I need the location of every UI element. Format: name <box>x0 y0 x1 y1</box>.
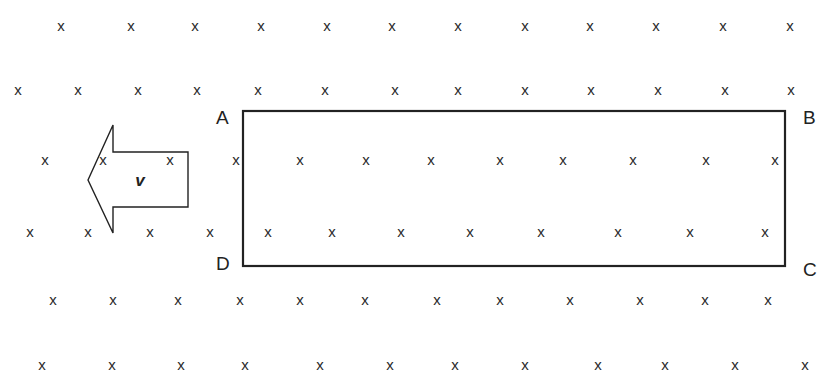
field-cross-icon: x <box>719 17 727 34</box>
field-cross-icon: x <box>537 223 545 240</box>
field-cross-icon: x <box>594 356 602 373</box>
corner-label-b: B <box>803 107 816 128</box>
field-cross-icon: x <box>496 291 504 308</box>
field-cross-icon: x <box>296 151 304 168</box>
field-cross-icon: x <box>57 17 65 34</box>
field-cross-icon: x <box>109 291 117 308</box>
field-cross-icon: x <box>206 223 214 240</box>
corner-label-a: A <box>216 107 229 128</box>
field-cross-icon: x <box>254 81 262 98</box>
field-cross-icon: x <box>49 291 57 308</box>
field-cross-icon: x <box>586 17 594 34</box>
field-cross-icon: x <box>787 81 795 98</box>
field-cross-icon: x <box>566 291 574 308</box>
field-cross-icon: x <box>328 223 336 240</box>
field-cross-icon: x <box>232 151 240 168</box>
field-cross-icon: x <box>786 17 794 34</box>
field-cross-icon: x <box>454 81 462 98</box>
field-cross-icon: x <box>521 81 529 98</box>
magnetic-field-crosses: xxxxxxxxxxxxxxxxxxxxxxxxxxxxxxxxxxxxxxxx… <box>14 17 809 373</box>
field-cross-icon: x <box>361 291 369 308</box>
field-cross-icon: x <box>686 223 694 240</box>
magnetic-field-diagram: xxxxxxxxxxxxxxxxxxxxxxxxxxxxxxxxxxxxxxxx… <box>0 0 833 389</box>
field-cross-icon: x <box>177 356 185 373</box>
field-cross-icon: x <box>629 151 637 168</box>
field-cross-icon: x <box>731 356 739 373</box>
field-cross-icon: x <box>134 81 142 98</box>
field-cross-icon: x <box>296 291 304 308</box>
field-cross-icon: x <box>661 356 669 373</box>
field-cross-icon: x <box>559 151 567 168</box>
field-cross-icon: x <box>166 151 174 168</box>
field-cross-icon: x <box>127 17 135 34</box>
field-cross-icon: x <box>521 356 529 373</box>
field-cross-icon: x <box>321 81 329 98</box>
field-cross-icon: x <box>388 17 396 34</box>
velocity-label: v <box>135 171 146 190</box>
field-cross-icon: x <box>38 356 46 373</box>
field-cross-icon: x <box>323 17 331 34</box>
field-cross-icon: x <box>636 291 644 308</box>
field-cross-icon: x <box>316 356 324 373</box>
field-cross-icon: x <box>761 223 769 240</box>
field-cross-icon: x <box>14 81 22 98</box>
corner-label-c: C <box>803 259 817 280</box>
field-cross-icon: x <box>108 356 116 373</box>
field-cross-icon: x <box>702 151 710 168</box>
field-cross-icon: x <box>721 81 729 98</box>
field-cross-icon: x <box>74 81 82 98</box>
field-cross-icon: x <box>654 81 662 98</box>
field-cross-icon: x <box>427 151 435 168</box>
field-cross-icon: x <box>652 17 660 34</box>
field-cross-icon: x <box>391 81 399 98</box>
field-cross-icon: x <box>496 151 504 168</box>
field-cross-icon: x <box>521 17 529 34</box>
field-cross-icon: x <box>801 356 809 373</box>
field-cross-icon: x <box>41 151 49 168</box>
field-cross-icon: x <box>26 223 34 240</box>
field-cross-icon: x <box>454 17 462 34</box>
field-cross-icon: x <box>236 291 244 308</box>
field-cross-icon: x <box>466 223 474 240</box>
field-cross-icon: x <box>764 291 772 308</box>
field-cross-icon: x <box>146 223 154 240</box>
field-cross-icon: x <box>191 17 199 34</box>
field-cross-icon: x <box>451 356 459 373</box>
field-cross-icon: x <box>362 151 370 168</box>
corner-label-d: D <box>216 253 230 274</box>
field-cross-icon: x <box>386 356 394 373</box>
field-cross-icon: x <box>174 291 182 308</box>
field-cross-icon: x <box>771 151 779 168</box>
conducting-loop-abcd <box>243 111 785 266</box>
field-cross-icon: x <box>84 223 92 240</box>
field-cross-icon: x <box>701 291 709 308</box>
field-cross-icon: x <box>397 223 405 240</box>
field-cross-icon: x <box>433 291 441 308</box>
field-cross-icon: x <box>193 81 201 98</box>
field-cross-icon: x <box>257 17 265 34</box>
field-cross-icon: x <box>614 223 622 240</box>
field-cross-icon: x <box>264 223 272 240</box>
field-cross-icon: x <box>241 356 249 373</box>
field-cross-icon: x <box>587 81 595 98</box>
